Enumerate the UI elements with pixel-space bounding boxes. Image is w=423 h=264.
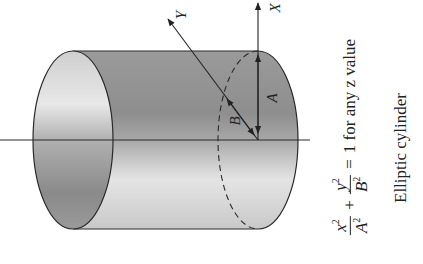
x-over-a-fraction: x2 A2: [331, 216, 369, 235]
eq-x: x: [331, 224, 350, 232]
figure-caption: Elliptic cylinder: [391, 93, 411, 203]
y-over-b-fraction: y2 B2: [331, 175, 369, 194]
y-axis-label: Y: [173, 9, 189, 19]
eq-a-exp: 2: [351, 218, 362, 223]
eq-rhs: 1 for any z value: [340, 39, 360, 153]
eq-y: y: [331, 183, 350, 191]
eq-a: A: [351, 223, 370, 233]
a-dimension-label: A: [264, 93, 280, 104]
eq-y-exp: 2: [330, 178, 341, 183]
eq-b-exp: 2: [351, 177, 362, 182]
eq-equals: =: [340, 157, 360, 171]
b-dimension-label: B: [227, 116, 243, 125]
x-axis-label: X: [267, 3, 283, 14]
cylinder-equation: x2 A2 + y2 B2 = 1 for any z value: [331, 39, 369, 235]
eq-b: B: [351, 182, 370, 192]
eq-plus: +: [340, 198, 360, 212]
elliptic-cylinder-figure: X Y A B x2 A2 + y2 B2 = 1 for any z valu…: [0, 0, 423, 264]
eq-x-exp: 2: [330, 219, 341, 224]
